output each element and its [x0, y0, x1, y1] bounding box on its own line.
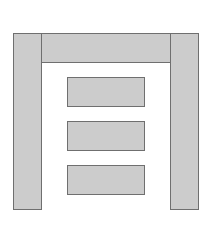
content-block-2 — [67, 121, 145, 151]
content-block-1 — [67, 77, 145, 107]
content-block-3 — [67, 165, 145, 195]
right-column — [170, 33, 199, 210]
left-column — [13, 33, 42, 210]
header-bar — [41, 33, 171, 63]
